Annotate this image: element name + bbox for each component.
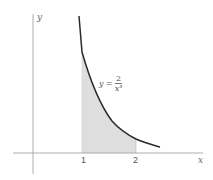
x-axis-label: x (198, 155, 203, 165)
equation-denominator: x³ (115, 84, 123, 93)
x-tick-1: 1 (81, 155, 86, 165)
function-label: y = 2 x³ (99, 74, 122, 93)
shaded-area (82, 52, 136, 153)
equation-fraction: 2 x³ (115, 74, 123, 93)
equation-lhs: y = (99, 79, 113, 88)
y-axis-label: y (37, 12, 42, 22)
equation-numerator: 2 (115, 74, 122, 84)
x-tick-2: 2 (133, 155, 138, 165)
